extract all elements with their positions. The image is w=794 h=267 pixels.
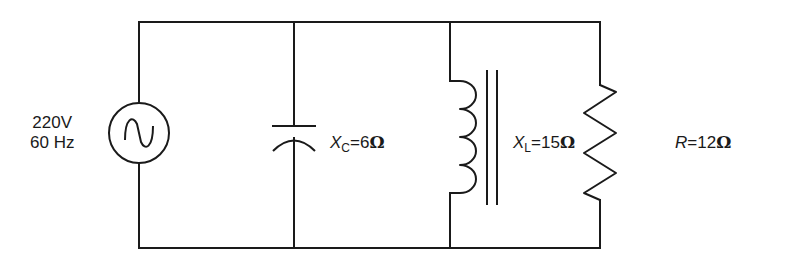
source-label: 220V 60 Hz — [30, 113, 74, 153]
resistor-icon — [584, 22, 616, 248]
capacitor-icon — [272, 22, 316, 248]
source-frequency: 60 Hz — [30, 133, 74, 153]
inductor-value: 15 — [541, 133, 560, 152]
resistor-unit: Ω — [716, 132, 731, 152]
inductor-symbol: X — [513, 133, 524, 152]
resistor-value: 12 — [697, 133, 716, 152]
inductor-equals: = — [531, 133, 541, 152]
resistor-symbol: R — [675, 133, 687, 152]
capacitor-equals: = — [350, 133, 360, 152]
capacitor-unit: Ω — [369, 132, 384, 152]
inductor-unit: Ω — [560, 132, 575, 152]
inductor-label: XL=15Ω — [513, 134, 575, 151]
capacitor-value: 6 — [360, 133, 369, 152]
resistor-equals: = — [687, 133, 697, 152]
capacitor-subscript: C — [341, 141, 350, 155]
resistor-label: R=12Ω — [675, 134, 731, 151]
ac-source-icon — [109, 22, 169, 248]
inductor-subscript: L — [524, 141, 531, 155]
inductor-iron-core-icon — [450, 22, 497, 248]
capacitor-label: XC=6Ω — [330, 134, 385, 151]
source-voltage: 220V — [30, 113, 74, 133]
capacitor-symbol: X — [330, 133, 341, 152]
